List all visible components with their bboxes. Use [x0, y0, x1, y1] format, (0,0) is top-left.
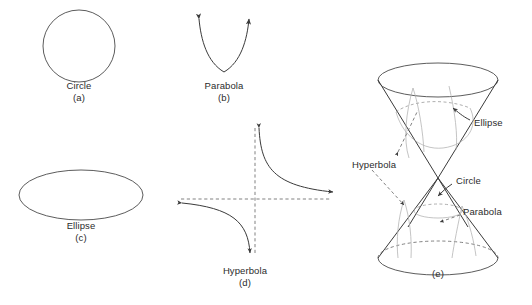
hyperbola-callout-leader-lower	[372, 170, 404, 205]
hyperbola-branch-lower-left	[182, 203, 250, 253]
hyperbola-section-lower-branch	[397, 200, 404, 258]
panel-c-sublabel: (c)	[75, 232, 86, 244]
parabola-section-lower-a	[452, 206, 462, 258]
panel-e-sublabel: (e)	[432, 268, 444, 280]
hyperbola-callout-label: Hyperbola	[352, 159, 396, 171]
cone-lower-right-edge	[438, 178, 498, 258]
hyperbola-callout-leader-upper	[398, 110, 418, 152]
cone-cross-left	[408, 178, 438, 227]
cone-base-rim-back	[378, 241, 498, 258]
panel-d-sublabel: (d)	[239, 277, 251, 289]
panel-b-sublabel: (b)	[218, 92, 230, 104]
panel-c-ellipse-shape	[19, 170, 143, 220]
panel-c-label: Ellipse	[67, 220, 96, 232]
conic-sections-figure: Circle (a) Parabola (b) Ellipse (c) Hype…	[0, 0, 532, 305]
panel-a-sublabel: (a)	[73, 92, 85, 104]
cone-lower-left-edge	[378, 178, 438, 258]
panel-a-circle-shape	[43, 10, 115, 82]
ellipse-section-back	[396, 102, 470, 112]
hyperbola-section-lower-branch-2	[404, 200, 411, 258]
panel-b-label: Parabola	[205, 80, 244, 92]
circle-section-front	[414, 211, 462, 218]
ellipse-callout-leader	[453, 108, 470, 120]
hyperbola-branch-upper-right	[259, 128, 333, 192]
parabola-callout-leader	[440, 215, 460, 222]
panel-a-label: Circle	[67, 80, 92, 92]
figure-canvas	[0, 0, 532, 305]
panel-d-hyperbola-shape	[181, 128, 333, 253]
parabola-section-upper-guide	[449, 86, 457, 150]
panel-b-parabola-shape	[199, 19, 249, 72]
parabola-callout-label: Parabola	[463, 206, 502, 218]
ellipse-callout-label: Ellipse	[474, 117, 503, 129]
circle-callout-label: Circle	[456, 175, 481, 187]
cone-top-rim-ellipse	[378, 63, 498, 97]
panel-d-label: Hyperbola	[223, 265, 267, 277]
